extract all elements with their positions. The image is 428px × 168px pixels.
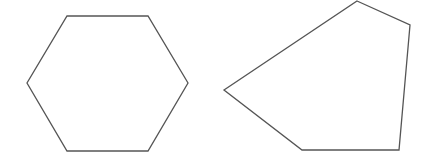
diagram-canvas — [0, 0, 428, 168]
hexagon-shape — [27, 16, 188, 151]
pentagon-shape — [224, 1, 410, 150]
